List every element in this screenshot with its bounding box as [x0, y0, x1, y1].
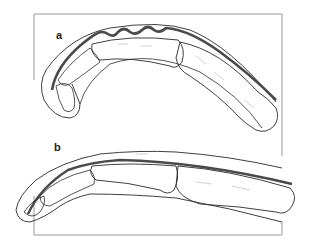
- panel-b-drawing: [16, 151, 295, 222]
- finger-anatomy-figure: a b: [0, 0, 313, 245]
- panel-a-label: a: [56, 29, 62, 41]
- tendon-straight: [28, 160, 292, 214]
- tendon-wavy: [52, 27, 276, 100]
- panel-b-label: b: [54, 141, 61, 153]
- illustration-canvas: [0, 0, 313, 245]
- figure-frame: [34, 14, 282, 235]
- panel-a-drawing: [41, 24, 277, 131]
